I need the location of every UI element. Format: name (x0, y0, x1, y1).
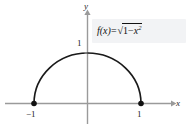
y-axis-label: y (84, 2, 88, 11)
radical-group: √1−x2 (117, 23, 143, 36)
tick-label-x-negative-1: −1 (26, 110, 36, 119)
semicircle-figure: f(x)=√1−x2 y x 1 −1 1 (0, 0, 188, 137)
x-axis-label: x (176, 99, 180, 108)
endpoint-dot-right (138, 101, 144, 107)
formula-lhs: f(x) (97, 25, 111, 36)
tick-label-x-1: 1 (137, 110, 142, 119)
endpoint-dot-left (31, 101, 37, 107)
function-formula: f(x)=√1−x2 (97, 23, 142, 36)
radicand: 1−x2 (122, 23, 142, 36)
radicand-exponent: 2 (138, 24, 141, 31)
tick-label-y-1: 1 (77, 39, 82, 48)
